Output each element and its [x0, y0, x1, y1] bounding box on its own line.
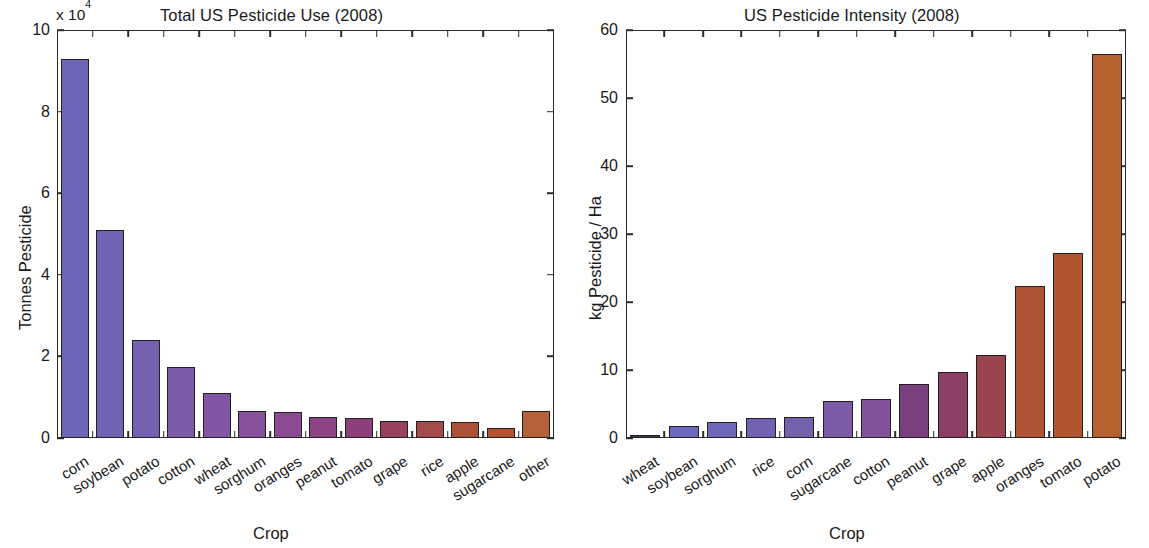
bar — [1092, 54, 1122, 438]
bar — [899, 384, 929, 438]
bar — [487, 428, 515, 438]
bar — [274, 412, 302, 438]
bar — [96, 230, 124, 438]
bar — [823, 401, 853, 438]
panel-total-use: x 104 Total US Pesticide Use (2008) Tonn… — [0, 0, 574, 548]
bar — [167, 367, 195, 438]
bar — [522, 411, 550, 438]
bar — [746, 418, 776, 438]
bar — [345, 418, 373, 438]
bar — [1015, 286, 1045, 438]
pesticide-figure: x 104 Total US Pesticide Use (2008) Tonn… — [0, 0, 1149, 548]
bar — [784, 417, 814, 438]
bar — [669, 426, 699, 438]
bar — [976, 355, 1006, 438]
bar — [861, 399, 891, 438]
bar — [416, 421, 444, 438]
panel-intensity: US Pesticide Intensity (2008) kg Pestici… — [574, 0, 1148, 548]
bar — [61, 59, 89, 438]
bar — [938, 372, 968, 438]
bar — [132, 340, 160, 438]
bar — [309, 417, 337, 438]
bar — [1053, 253, 1083, 438]
bar — [707, 422, 737, 438]
bar — [630, 435, 660, 438]
bar — [451, 422, 479, 438]
bar — [238, 411, 266, 438]
bar — [380, 421, 408, 438]
bar — [203, 393, 231, 438]
